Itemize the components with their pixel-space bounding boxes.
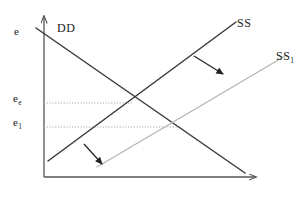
supply-curve-shifted-label: SS1 (276, 51, 294, 62)
equilibrium-rate-subscript: e (18, 98, 21, 107)
rate-one-subscript: 1 (18, 122, 22, 131)
lower-shift-arrow (84, 144, 102, 164)
demand-curve-dd (36, 28, 245, 173)
rate-one-label: e1 (13, 117, 22, 128)
supply-curve-ss1 (97, 56, 285, 167)
supply-curve-shifted-base: SS (276, 49, 290, 63)
upper-shift-arrow (194, 56, 223, 74)
equilibrium-rate-label: ee (13, 93, 22, 104)
supply-demand-diagram (0, 0, 308, 203)
demand-curve-label: DD (57, 23, 75, 34)
supply-curve-shifted-subscript: 1 (290, 56, 294, 65)
supply-curve-label: SS (237, 18, 251, 29)
y-axis-label: e (14, 26, 19, 37)
